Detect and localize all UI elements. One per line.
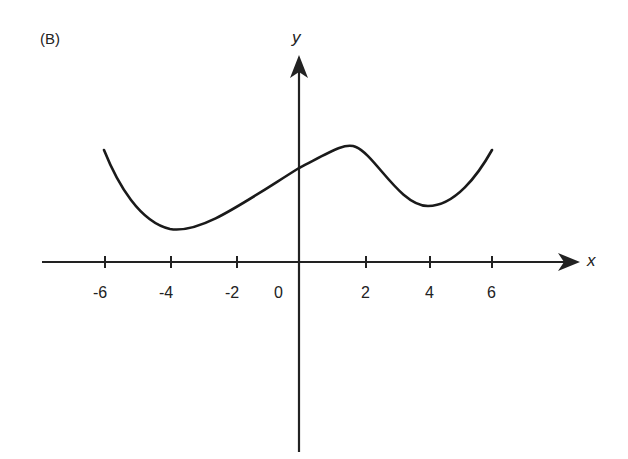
x-tick-label: 6 — [487, 284, 496, 301]
x-tick-label: -4 — [159, 284, 173, 301]
x-axis-label: x — [586, 251, 596, 270]
y-axis-label: y — [291, 28, 302, 47]
x-tick-label: 0 — [274, 284, 283, 301]
x-tick-label: 2 — [361, 284, 370, 301]
x-tick-label: -2 — [225, 284, 239, 301]
x-tick-label: 4 — [425, 284, 434, 301]
chart-canvas: x y -6 -4 -2 0 2 4 6 — [0, 0, 628, 459]
x-tick-label: -6 — [93, 284, 107, 301]
